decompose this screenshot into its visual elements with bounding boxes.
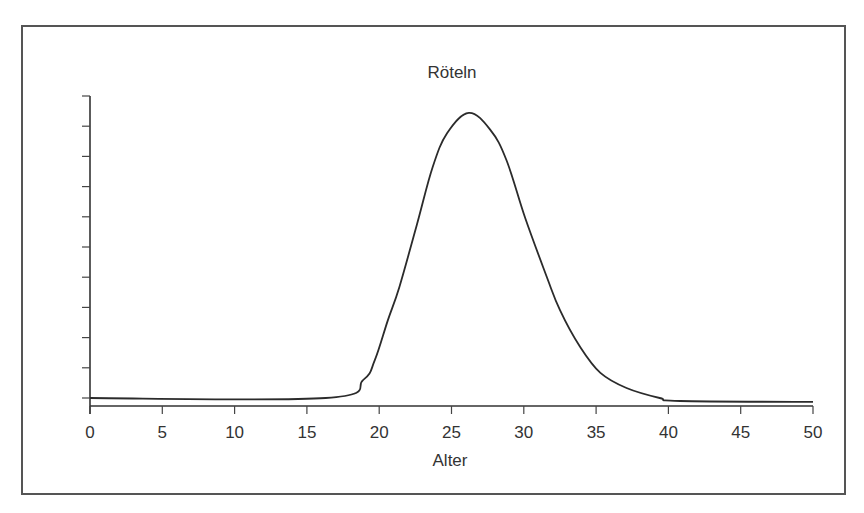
series-line (90, 113, 813, 402)
x-axis: 05101520253035404550 (85, 406, 822, 442)
chart-plot: Röteln 05101520253035404550 Alter (0, 0, 864, 513)
x-tick-label: 15 (297, 423, 316, 442)
x-tick-label: 40 (659, 423, 678, 442)
x-axis-label: Alter (433, 451, 468, 470)
x-tick-label: 0 (85, 423, 94, 442)
chart-title: Röteln (427, 63, 476, 82)
x-tick-label: 35 (587, 423, 606, 442)
data-series (90, 113, 813, 402)
x-tick-label: 45 (731, 423, 750, 442)
x-tick-label: 25 (442, 423, 461, 442)
x-tick-label: 50 (804, 423, 823, 442)
y-axis (82, 96, 90, 414)
x-tick-label: 10 (225, 423, 244, 442)
x-tick-label: 30 (514, 423, 533, 442)
x-tick-label: 20 (370, 423, 389, 442)
x-tick-label: 5 (158, 423, 167, 442)
